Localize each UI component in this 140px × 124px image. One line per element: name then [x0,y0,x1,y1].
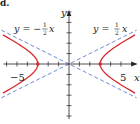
hyperbola-figure: d. y x −5 5 y = − 1 2 x y = 1 2 x [0,0,140,124]
asymptote-neg-lhs: y = − [13,23,41,34]
asymptote-neg-den: 2 [43,29,47,36]
tick-label-pos5: 5 [120,72,126,83]
tick-label-neg5: −5 [10,72,25,83]
asymptote-pos-var: x [122,23,128,34]
asymptote-neg-var: x [49,23,55,34]
asymptote-label-negative: y = − 1 2 x [13,21,55,36]
asymptote-pos-den: 2 [115,29,119,36]
asymptote-label-positive: y = 1 2 x [92,21,128,36]
vertex-dot [36,62,40,66]
x-axis-label: x [134,72,140,83]
y-axis-arrow-icon [67,10,72,16]
y-axis-label: y [60,7,67,18]
labels: d. y x −5 5 y = − 1 2 x y = 1 2 x [0,0,140,83]
vertex-dot [98,62,102,66]
x-axis-arrow-icon [132,62,138,67]
asymptote-pos-num: 1 [115,21,119,28]
panel-label: d. [0,0,9,8]
asymptote-neg-num: 1 [43,21,47,28]
asymptote-pos-lhs: y = [92,23,109,34]
